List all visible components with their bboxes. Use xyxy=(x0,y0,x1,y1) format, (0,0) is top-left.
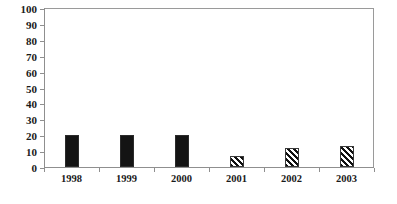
x-tick-mark xyxy=(99,168,100,172)
y-tick-mark xyxy=(40,73,44,74)
y-axis-label: 100 xyxy=(21,4,38,15)
x-tick-mark xyxy=(264,168,265,172)
frame-right-border xyxy=(373,8,374,168)
y-axis-label: 50 xyxy=(26,83,37,94)
x-axis-label-2000: 2000 xyxy=(171,174,192,185)
x-tick-mark xyxy=(44,168,45,172)
y-tick-mark xyxy=(40,57,44,58)
y-axis-line xyxy=(44,8,45,168)
y-axis-label: 90 xyxy=(26,19,37,30)
x-tick-mark xyxy=(319,168,320,172)
x-tick-mark xyxy=(374,168,375,172)
y-tick-mark xyxy=(40,136,44,137)
x-axis-label-2001: 2001 xyxy=(226,174,247,185)
y-axis-label: 80 xyxy=(26,35,37,46)
bar-1999 xyxy=(120,135,134,167)
y-tick-mark xyxy=(40,104,44,105)
frame-top-border xyxy=(44,8,374,9)
x-axis-label-1999: 1999 xyxy=(116,174,137,185)
y-axis-label: 20 xyxy=(26,131,37,142)
y-tick-mark xyxy=(40,120,44,121)
x-axis-label-2003: 2003 xyxy=(336,174,357,185)
x-axis-label-2002: 2002 xyxy=(281,174,302,185)
y-axis-label: 70 xyxy=(26,51,37,62)
y-tick-mark xyxy=(40,25,44,26)
bar-2001 xyxy=(230,156,244,167)
x-tick-mark xyxy=(154,168,155,172)
plot-area: 0102030405060708090100 xyxy=(44,8,374,168)
bar-1998 xyxy=(65,135,79,167)
x-tick-mark xyxy=(209,168,210,172)
y-tick-mark xyxy=(40,152,44,153)
y-axis-label: 0 xyxy=(32,163,38,174)
bar-chart: 0102030405060708090100 19981999200020012… xyxy=(0,0,397,204)
bar-2003 xyxy=(340,146,354,167)
y-axis-label: 30 xyxy=(26,115,37,126)
y-tick-mark xyxy=(40,9,44,10)
y-axis-label: 10 xyxy=(26,147,37,158)
bar-2000 xyxy=(175,135,189,167)
y-axis-label: 40 xyxy=(26,99,37,110)
y-tick-mark xyxy=(40,41,44,42)
y-tick-mark xyxy=(40,89,44,90)
y-axis-label: 60 xyxy=(26,67,37,78)
x-axis-label-1998: 1998 xyxy=(61,174,82,185)
bar-2002 xyxy=(285,148,299,167)
